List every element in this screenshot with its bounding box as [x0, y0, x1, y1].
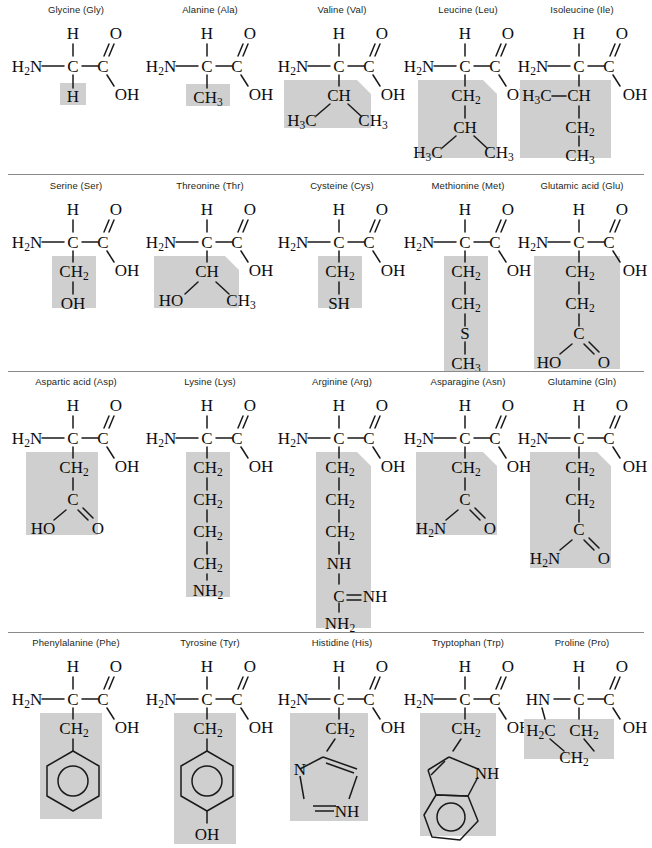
atom-carbonyl-carbon: C — [489, 57, 500, 76]
atom-hn: HN — [526, 690, 551, 709]
atom-hydroxyl: OH — [115, 85, 140, 104]
atom-carbonyl-carbon: C — [489, 429, 500, 448]
atom-alpha-carbon: C — [459, 57, 470, 76]
atom-ring-nh: NH — [335, 802, 360, 821]
atom-amide-o: O — [484, 519, 496, 538]
atom-carbonyl-oxygen: O — [244, 24, 256, 43]
amino-acid-name-arginine: Arginine (Arg) — [272, 376, 412, 387]
atom-alpha-carbon: C — [459, 233, 470, 252]
atom-alpha-hydrogen: H — [333, 657, 345, 676]
atom-hydroxyl: OH — [623, 261, 648, 280]
atom-h2n: H2N — [518, 429, 548, 449]
atom-carbonyl-carbon: C — [231, 57, 242, 76]
atom-alpha-hydrogen: H — [201, 200, 213, 219]
atom-carboxyl-o: O — [92, 519, 104, 538]
atom-carbonyl-oxygen: O — [110, 396, 122, 415]
atom-hydroxyl: OH — [249, 457, 274, 476]
atom-carbonyl-oxygen: O — [616, 657, 628, 676]
amino-acid-name-phenylalanine: Phenylalanine (Phe) — [6, 637, 146, 648]
atom-alpha-hydrogen: H — [333, 24, 345, 43]
atom-carbonyl-oxygen: O — [616, 24, 628, 43]
amino-acid-name-lysine: Lysine (Lys) — [140, 376, 280, 387]
atom-alpha-hydrogen: H — [67, 396, 79, 415]
atom-carbonyl-carbon: C — [231, 429, 242, 448]
atom-alpha-carbon: C — [201, 233, 212, 252]
atom-carbonyl-carbon: C — [97, 233, 108, 252]
atom-alpha-carbon: C — [573, 233, 584, 252]
atom-carbonyl-oxygen: O — [376, 200, 388, 219]
atom-alpha-carbon: C — [201, 57, 212, 76]
atom-carbonyl-carbon: C — [231, 233, 242, 252]
atom-alpha-carbon: C — [333, 690, 344, 709]
atom-h2n: H2N — [518, 233, 548, 253]
atom-alpha-carbon: C — [459, 690, 470, 709]
atom-carbonyl-carbon: C — [97, 429, 108, 448]
atom-phenol-oh: OH — [195, 825, 220, 844]
atom-hydroxyl: OH — [115, 718, 140, 737]
atom-alpha-hydrogen: H — [573, 396, 585, 415]
atom-carbonyl-carbon: C — [489, 690, 500, 709]
amino-acid-name-proline: Proline (Pro) — [512, 637, 652, 648]
atom-h2n: H2N — [12, 690, 42, 710]
atom-hydroxyl: OH — [249, 718, 274, 737]
atom-h2n: H2N — [146, 57, 176, 77]
atom-beta-ch: CH — [195, 262, 219, 281]
atom-h2n: H2N — [404, 690, 434, 710]
atom-alpha-carbon: C — [333, 429, 344, 448]
amino-acid-name-cysteine: Cysteine (Cys) — [272, 180, 412, 191]
atom-carbonyl-oxygen: O — [244, 200, 256, 219]
atom-carbonyl-carbon: C — [231, 690, 242, 709]
atom-carbonyl-carbon: C — [363, 429, 374, 448]
atom-carbonyl-oxygen: O — [616, 200, 628, 219]
atom-alpha-carbon: C — [201, 429, 212, 448]
atom-hydroxyl: OH — [623, 457, 648, 476]
atom-methyl-branch: CH3 — [226, 291, 256, 311]
atom-alpha-carbon: C — [201, 690, 212, 709]
atom-alpha-hydrogen: H — [201, 24, 213, 43]
atom-alpha-carbon: C — [459, 429, 470, 448]
atom-h2n: H2N — [278, 57, 308, 77]
atom-carboxyl-ho: HO — [537, 353, 562, 372]
atom-beta-ch: CH — [327, 86, 351, 105]
atom-alpha-carbon: C — [573, 429, 584, 448]
atom-alpha-carbon: C — [67, 429, 78, 448]
atom-alpha-carbon: C — [67, 57, 78, 76]
atom-hydroxyl: OH — [249, 85, 274, 104]
amino-acid-name-alanine: Alanine (Ala) — [140, 4, 280, 15]
amino-acid-name-valine: Valine (Val) — [272, 4, 412, 15]
atom-alpha-hydrogen: H — [459, 657, 471, 676]
atom-guanidino-carbon: C — [333, 587, 344, 606]
atom-ring-nh: NH — [475, 764, 500, 783]
atom-hydroxyl: OH — [249, 261, 274, 280]
atom-carbonyl-carbon: C — [363, 57, 374, 76]
atom-alpha-carbon: C — [67, 233, 78, 252]
atom-h2n: H2N — [404, 233, 434, 253]
atom-carboxyl-carbon: C — [573, 324, 584, 343]
atom-carbonyl-oxygen: O — [616, 396, 628, 415]
atom-alpha-carbon: C — [333, 57, 344, 76]
atom-alpha-hydrogen: H — [459, 200, 471, 219]
atom-methyl-right: CH3 — [358, 111, 388, 131]
atom-h2n: H2N — [12, 57, 42, 77]
atom-carbonyl-carbon: C — [363, 690, 374, 709]
atom-carbonyl-oxygen: O — [110, 24, 122, 43]
atom-hydroxyl-branch: HO — [159, 291, 184, 310]
atom-alpha-hydrogen: H — [573, 657, 585, 676]
atom-carboxyl-o: O — [598, 353, 610, 372]
atom-side-chain-h: H — [67, 87, 79, 106]
atom-carbonyl-carbon: C — [97, 57, 108, 76]
atom-alpha-carbon: C — [333, 233, 344, 252]
atom-h2n: H2N — [518, 57, 548, 77]
amino-acid-name-tyrosine: Tyrosine (Tyr) — [140, 637, 280, 648]
row-divider-2 — [8, 371, 644, 372]
atom-amide-carbon: C — [459, 490, 470, 509]
atom-h2n: H2N — [12, 429, 42, 449]
atom-carbonyl-carbon: C — [97, 690, 108, 709]
atom-h2n: H2N — [146, 690, 176, 710]
atom-carboxyl-ho: HO — [31, 519, 56, 538]
atom-h2n: H2N — [146, 429, 176, 449]
atom-side-chain-oh: OH — [61, 294, 86, 313]
row-divider-1 — [8, 174, 644, 175]
atom-h2n: H2N — [278, 233, 308, 253]
